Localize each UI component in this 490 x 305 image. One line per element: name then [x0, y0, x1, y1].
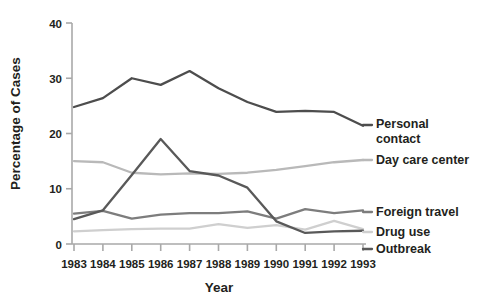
x-tick-label: 1988	[206, 258, 232, 270]
x-axis-ticks: 1983198419851986198719881989199019911992…	[61, 244, 376, 270]
legend-label-drug-use: Drug use	[376, 225, 430, 239]
x-tick-label: 1986	[148, 258, 174, 270]
x-tick-label: 1990	[264, 258, 290, 270]
x-tick-label: 1987	[177, 258, 203, 270]
x-tick-label: 1992	[321, 258, 347, 270]
x-tick-label: 1991	[292, 258, 318, 270]
x-tick-label: 1983	[61, 258, 87, 270]
legend-label-outbreak: Outbreak	[376, 242, 431, 256]
series-line-foreign-travel	[74, 209, 363, 218]
y-tick-label: 30	[49, 73, 62, 85]
y-axis-title: Percentage of Cases	[8, 57, 23, 190]
legend-label-foreign-travel: Foreign travel	[376, 205, 459, 219]
x-tick-label: 1985	[119, 258, 145, 270]
series-line-drug-use	[74, 221, 363, 232]
series-line-personal-contact	[74, 71, 363, 126]
chart-svg: 010203040 198319841985198619871988198919…	[0, 0, 490, 305]
x-tick-label: 1993	[350, 258, 376, 270]
line-chart: 010203040 198319841985198619871988198919…	[0, 0, 490, 305]
x-tick-label: 1984	[90, 258, 116, 270]
series-line-outbreak	[74, 139, 363, 233]
y-tick-label: 10	[49, 183, 62, 195]
x-axis-title: Year	[205, 280, 234, 295]
x-tick-label: 1989	[235, 258, 261, 270]
y-tick-label: 0	[56, 239, 62, 251]
legend-label-day-care-center: Day care center	[376, 153, 469, 167]
series-line-day-care-center	[74, 160, 363, 174]
y-tick-label: 40	[49, 18, 62, 30]
chart-legend: PersonalcontactDay care centerForeign tr…	[363, 117, 469, 256]
y-tick-label: 20	[49, 128, 62, 140]
data-series-group	[74, 71, 363, 233]
y-axis-ticks: 010203040	[49, 18, 72, 251]
legend-label-personal-contact-line2: contact	[376, 132, 421, 146]
legend-label-personal-contact-line1: Personal	[376, 117, 429, 131]
